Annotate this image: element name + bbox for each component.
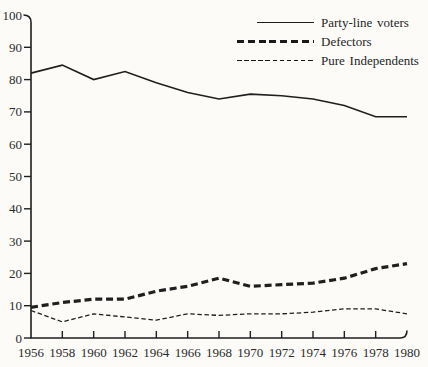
x-axis-tick-label: 1960 [81,345,107,360]
y-axis-tick-label: 20 [9,266,22,281]
y-axis-tick-label: 40 [9,201,22,216]
legend-label-defectors: Defectors [321,34,372,50]
series-line-pure-independents [31,309,407,322]
x-axis-tick-label: 1968 [206,345,232,360]
x-axis-tick-label: 1976 [331,345,358,360]
x-axis-tick-label: 1966 [175,345,202,360]
x-axis-tick-label: 1970 [237,345,263,360]
x-axis-tick-label: 1962 [112,345,138,360]
series-line-party-line-voters [31,65,407,117]
legend-swatch [236,40,314,44]
chart-figure: 0102030405060708090100195619581960196219… [0,0,428,367]
x-axis-tick-label: 1978 [363,345,389,360]
x-axis-tick-label: 1972 [269,345,295,360]
y-axis-tick-label: 10 [9,298,22,313]
y-axis-tick-label: 30 [9,234,22,249]
y-axis-tick-label: 0 [16,331,23,346]
y-axis-tick-label: 90 [9,40,22,55]
series-line-defectors [31,264,407,308]
legend-sample-thin-dashed-line-icon [237,60,314,62]
legend-label-pure-independents: Pure Independents [321,53,419,69]
legend-sample-thick-dashed-line-icon [237,40,314,44]
y-axis-tick-label: 80 [9,72,22,87]
y-axis-tick-label: 60 [9,137,22,152]
y-axis-tick-label: 100 [3,8,23,23]
x-axis-tick-label: 1956 [18,345,45,360]
chart-legend: Party-line voters Defectors Pure Indepen… [236,13,419,70]
y-axis-tick-label: 50 [9,169,22,184]
legend-swatch [236,22,314,23]
y-axis-tick-label: 70 [9,104,22,119]
x-axis-tick-label: 1964 [143,345,170,360]
x-axis-tick-label: 1980 [394,345,420,360]
legend-label-party-line-voters: Party-line voters [321,15,409,31]
x-axis-tick-label: 1958 [49,345,75,360]
legend-item-party-line-voters: Party-line voters [236,13,419,32]
legend-item-defectors: Defectors [236,32,419,51]
x-axis-tick-label: 1974 [300,345,327,360]
legend-item-pure-independents: Pure Independents [236,51,419,70]
legend-swatch [236,60,314,62]
legend-sample-solid-line-icon [257,22,314,23]
